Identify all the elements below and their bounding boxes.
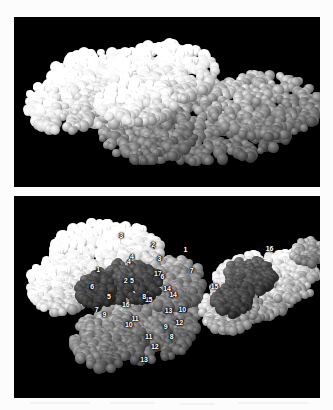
atom-sphere bbox=[112, 149, 121, 158]
atom-sphere bbox=[263, 132, 274, 143]
atom-sphere bbox=[68, 126, 77, 135]
atom-sphere bbox=[291, 128, 298, 135]
atom-sphere bbox=[131, 356, 139, 364]
scan-artifact bbox=[110, 402, 155, 404]
atom-sphere bbox=[247, 131, 257, 141]
right-residue-label: 16 bbox=[266, 244, 273, 251]
atom-sphere bbox=[238, 130, 247, 139]
atom-sphere bbox=[129, 297, 136, 304]
atom-sphere bbox=[140, 157, 148, 165]
atom-sphere bbox=[106, 364, 115, 373]
atom-sphere bbox=[300, 124, 308, 132]
panel-monomer-pair: 1234567891011121314151617123456789101112… bbox=[14, 196, 320, 398]
atom-sphere bbox=[147, 355, 156, 364]
right-residue-label: 1 bbox=[184, 245, 188, 252]
monomer-canvas: 1234567891011121314151617123456789101112… bbox=[14, 196, 320, 398]
atom-sphere bbox=[125, 118, 132, 125]
atom-sphere bbox=[301, 291, 309, 299]
atom-sphere bbox=[289, 297, 297, 305]
atom-sphere bbox=[237, 151, 247, 161]
atom-sphere bbox=[161, 353, 169, 361]
atom-sphere bbox=[307, 259, 317, 269]
atom-sphere bbox=[167, 151, 178, 162]
atom-sphere bbox=[228, 326, 238, 336]
atom-sphere bbox=[188, 157, 197, 166]
scan-artifact bbox=[238, 402, 308, 404]
atom-sphere bbox=[134, 117, 144, 127]
atom-sphere bbox=[58, 308, 66, 316]
dimer-canvas bbox=[14, 17, 320, 187]
atom-sphere bbox=[240, 306, 248, 314]
atom-sphere bbox=[274, 294, 283, 303]
atom-sphere bbox=[255, 288, 264, 297]
figure-root: 1234567891011121314151617123456789101112… bbox=[0, 0, 333, 410]
atom-sphere bbox=[268, 142, 280, 154]
atom-sphere bbox=[114, 359, 123, 368]
atom-sphere bbox=[67, 304, 79, 316]
atom-sphere bbox=[306, 116, 317, 127]
panel-dimer-overview bbox=[14, 17, 320, 187]
atom-sphere bbox=[178, 347, 186, 355]
atom-sphere bbox=[50, 125, 60, 135]
atom-sphere bbox=[228, 311, 237, 320]
atom-sphere bbox=[131, 156, 140, 165]
atom-sphere bbox=[40, 304, 48, 312]
atom-sphere bbox=[91, 301, 102, 312]
scan-artifact bbox=[180, 403, 215, 405]
atom-sphere bbox=[162, 306, 170, 314]
atom-sphere bbox=[218, 306, 227, 315]
scan-artifact bbox=[30, 402, 90, 404]
atom-sphere bbox=[93, 362, 105, 374]
atom-sphere bbox=[217, 153, 228, 164]
